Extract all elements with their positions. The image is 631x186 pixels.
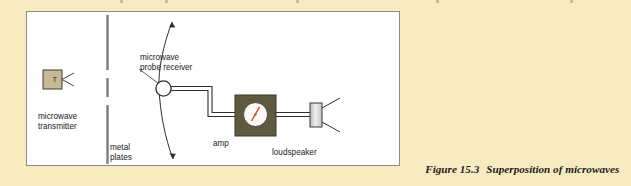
microwave-probe-receiver-icon <box>156 81 171 96</box>
cutoff-text-fragments <box>0 0 631 4</box>
probe-to-amp-cable <box>170 87 235 117</box>
amp-meter-icon <box>235 95 276 136</box>
figure-diagram-panel: T microwave transmitter metal plates mic… <box>26 11 400 166</box>
page-canvas: T microwave transmitter metal plates mic… <box>0 0 631 186</box>
figure-caption-text: Superposition of microwaves <box>486 163 619 175</box>
amp-to-speaker-cable <box>276 113 310 117</box>
transmitter-symbol-label: T <box>53 75 58 85</box>
microwave-probe-receiver-label: microwave probe receiver <box>140 53 192 72</box>
figure-caption: Figure 15.3Superposition of microwaves <box>414 151 619 186</box>
microwave-transmitter-label: microwave transmitter <box>38 112 77 131</box>
microwave-transmitter-icon <box>43 70 74 89</box>
loudspeaker-icon <box>310 98 340 132</box>
figure-number: Figure 15.3 <box>425 163 479 175</box>
loudspeaker-label: loudspeaker <box>272 148 317 158</box>
metal-plates-label: metal plates <box>110 143 132 162</box>
amp-label: amp <box>213 139 229 149</box>
